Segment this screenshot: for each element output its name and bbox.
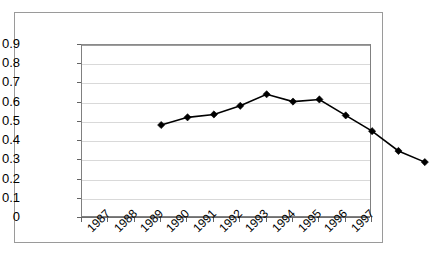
data-point-marker	[263, 91, 270, 98]
data-point-marker	[421, 159, 428, 166]
x-axis-tick-mark	[81, 217, 82, 222]
gridline	[82, 45, 370, 46]
data-point-marker	[342, 112, 349, 119]
y-axis-tick-mark	[77, 121, 81, 122]
y-axis-tick-mark	[77, 44, 81, 45]
data-point-marker	[158, 121, 165, 128]
y-axis-tick-label: 0.8	[0, 56, 20, 69]
y-axis-tick-label: 0.3	[0, 152, 20, 165]
y-axis-tick-label: 0.5	[0, 114, 20, 127]
y-axis-tick-label: 0.9	[0, 37, 20, 50]
y-axis-tick-mark	[77, 63, 81, 64]
y-axis-tick-mark	[77, 140, 81, 141]
data-point-marker	[289, 98, 296, 105]
y-axis-tick-label: 0.1	[0, 191, 20, 204]
gridline	[82, 64, 370, 65]
y-axis-tick-label: 0.6	[0, 95, 20, 108]
data-point-marker	[210, 111, 217, 118]
y-axis-tick-label: 0.2	[0, 172, 20, 185]
y-axis-tick-mark	[77, 198, 81, 199]
plot-area	[81, 44, 371, 217]
y-axis-tick-mark	[77, 102, 81, 103]
y-axis-tick-mark	[77, 82, 81, 83]
y-axis-tick-label: 0.4	[0, 133, 20, 146]
y-axis-tick-mark	[77, 179, 81, 180]
y-axis-tick-mark	[77, 159, 81, 160]
data-point-marker	[237, 102, 244, 109]
data-point-marker	[316, 96, 323, 103]
y-axis-tick-label: 0.7	[0, 75, 20, 88]
chart-outer-frame: 0.90.80.70.60.50.40.30.20.10198719881989…	[14, 12, 383, 243]
data-point-marker	[184, 114, 191, 121]
y-axis-tick-label: 0	[0, 210, 20, 223]
